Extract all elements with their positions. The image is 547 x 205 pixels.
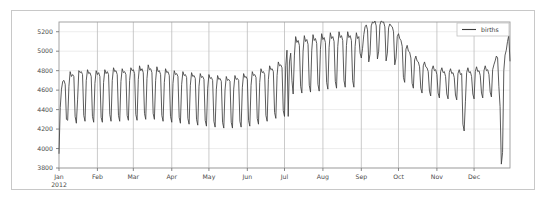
- y-axis-tick-labels: 38004000420044004600480050005200: [37, 28, 59, 171]
- x-tick-label: Dec: [468, 173, 481, 180]
- y-tick-label: 3800: [37, 164, 53, 171]
- y-tick-label: 4000: [37, 145, 53, 152]
- x-tick-label: Jul: [280, 173, 289, 181]
- x-tick-label: Mar: [127, 173, 139, 180]
- y-tick-label: 4200: [37, 125, 53, 132]
- x-tick-label: Oct: [393, 173, 404, 180]
- x-tick-label: May: [203, 173, 216, 181]
- x-axis-tick-labels: Jan2012FebMarAprMayJunJulAugSepOctNovDec: [51, 168, 481, 188]
- legend-entry-label: births: [481, 26, 499, 33]
- y-tick-label: 4400: [37, 106, 53, 113]
- chart-legend[interactable]: births: [457, 23, 509, 36]
- y-tick-label: 4600: [37, 86, 53, 93]
- x-tick-label: Aug: [317, 173, 329, 181]
- y-tick-label: 4800: [37, 67, 53, 74]
- x-tick-label: Jun: [241, 173, 252, 181]
- x-tick-label: Apr: [166, 173, 177, 181]
- x-tick-label: Nov: [431, 173, 443, 180]
- x-tick-year-sublabel: 2012: [51, 181, 67, 188]
- chart-figure: 38004000420044004600480050005200 Jan2012…: [11, 10, 535, 190]
- x-tick-label: Sep: [355, 173, 367, 181]
- x-tick-label: Jan: [53, 173, 64, 181]
- y-tick-label: 5200: [37, 28, 53, 35]
- vertical-month-gridlines: [97, 22, 474, 168]
- x-tick-label: Feb: [92, 173, 103, 180]
- y-tick-label: 5000: [37, 47, 53, 54]
- births-line-chart: 38004000420044004600480050005200 Jan2012…: [12, 11, 534, 189]
